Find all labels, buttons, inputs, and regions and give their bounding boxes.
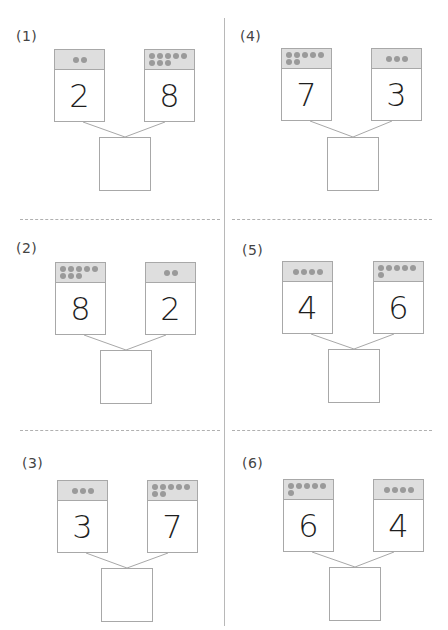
left-number-card: 6 [283, 479, 334, 552]
number-value: 4 [374, 500, 423, 552]
dot-icon [408, 487, 414, 493]
dot-counter [284, 480, 333, 500]
number-value: 6 [284, 500, 333, 552]
dot-icon [392, 487, 398, 493]
dot-counter [374, 480, 423, 500]
dot-icon [288, 490, 294, 496]
problem-label: (6) [242, 455, 263, 471]
right-number-card: 4 [373, 479, 424, 552]
dot-icon [288, 483, 294, 489]
dot-icon [296, 483, 302, 489]
dot-icon [312, 483, 318, 489]
answer-box[interactable] [329, 567, 381, 621]
dot-icon [320, 483, 326, 489]
dot-icon [304, 483, 310, 489]
dot-icon [384, 487, 390, 493]
dot-icon [400, 487, 406, 493]
number-bond-problem-6: (6) 6 4 [0, 0, 448, 630]
